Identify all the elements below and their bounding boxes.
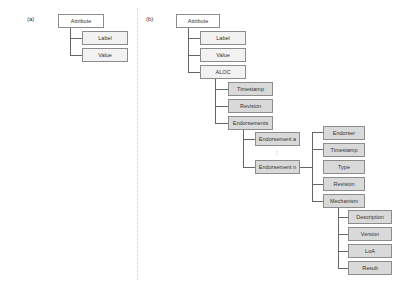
endorsements-connector	[243, 167, 255, 168]
a-connector	[70, 38, 82, 39]
fields-connector	[312, 132, 323, 133]
aloc-timestamp-node: Timestamp	[228, 82, 273, 96]
mechanism-node: Mechanism	[323, 194, 365, 208]
revision-node: Revision	[323, 177, 365, 191]
endorser-node: Endorser	[323, 126, 365, 140]
b-connector	[188, 72, 200, 73]
aloc-connector	[215, 123, 228, 124]
fields-connector-vertical	[312, 132, 313, 202]
panel-b-label: (b)	[146, 16, 153, 22]
panel-a-label: (a)	[27, 16, 34, 22]
endorsement-a-node: Endorsement a	[255, 132, 300, 146]
timestamp-node: Timestamp	[323, 143, 365, 157]
b-connector-vertical	[188, 28, 189, 73]
b-attribute-node: Attribute	[176, 14, 220, 28]
endorsement-n-node: Endorsement n	[255, 160, 300, 174]
a-connector	[70, 55, 82, 56]
mechanism-connector	[338, 251, 348, 252]
aloc-connector	[215, 106, 228, 107]
ellipsis-vertical: ···	[275, 150, 279, 156]
fields-connector	[312, 184, 323, 185]
mechanism-connector	[338, 268, 348, 269]
aloc-connector	[215, 89, 228, 90]
description-node: Description	[348, 210, 392, 224]
result-node: Result	[348, 261, 392, 275]
b-connector	[188, 38, 200, 39]
a-value-node: Value	[82, 48, 128, 62]
aloc-revision-node: Revision	[228, 99, 273, 113]
a-connector-vertical	[70, 28, 71, 56]
a-label-node: Label	[82, 31, 128, 45]
aloc-connector-vertical	[215, 79, 216, 123]
panel-divider	[137, 8, 138, 280]
fields-connector	[312, 201, 323, 202]
endorsements-connector	[243, 139, 255, 140]
fields-connector	[312, 149, 323, 150]
endorsements-connector-vertical	[243, 130, 244, 167]
mechanism-connector	[338, 234, 348, 235]
endorsement-n-connector	[300, 167, 312, 168]
b-connector	[188, 55, 200, 56]
a-attribute-node: Attribute	[58, 14, 104, 28]
aloc-endorsements-node: Endorsements	[228, 116, 273, 130]
loa-node: LoA	[348, 244, 392, 258]
type-node: Type	[323, 160, 365, 174]
b-label-node: Label	[200, 31, 246, 45]
b-aloc-node: ALOC	[200, 65, 246, 79]
b-value-node: Value	[200, 48, 246, 62]
mechanism-connector	[338, 217, 348, 218]
version-node: Version	[348, 227, 392, 241]
